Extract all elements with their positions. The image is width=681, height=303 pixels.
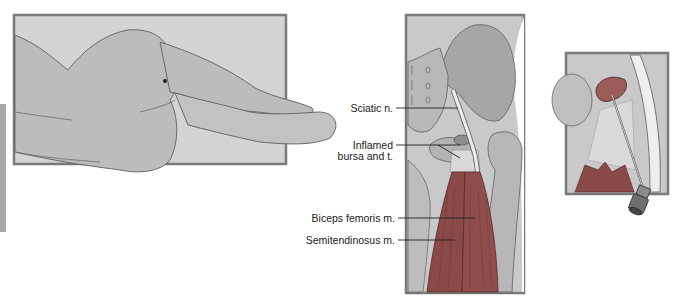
label-bursa-and-tendon: bursa and t. [338,150,393,162]
label-biceps-femoris: Biceps femoris m. [312,212,395,224]
injection-detail-panel [552,53,668,217]
label-sciatic-nerve: Sciatic n. [350,102,393,114]
figure-canvas: Sciatic n. Inflamed bursa and t. Biceps … [0,0,681,303]
anatomy-panel [406,15,524,293]
label-semitendinosus: Semitendinosus m. [306,234,395,246]
injection-site-marker [163,79,167,83]
patient-position-panel [14,15,336,172]
patient-body [15,30,177,172]
side-tab [0,104,6,232]
